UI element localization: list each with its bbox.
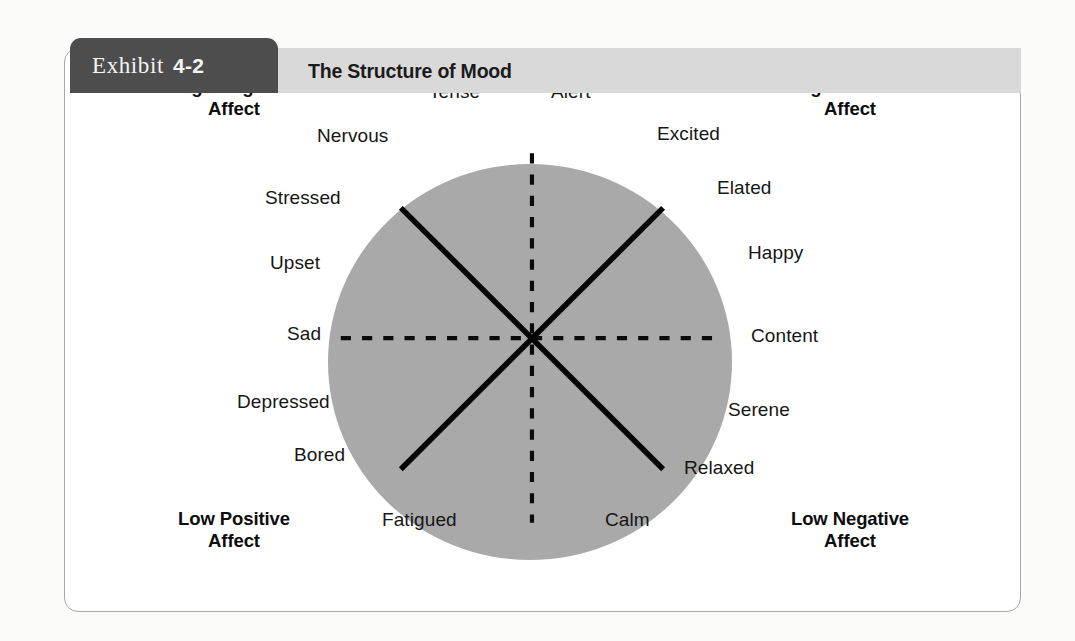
- mood-label-happy: Happy: [748, 242, 803, 264]
- mood-label-depressed: Depressed: [237, 391, 330, 413]
- mood-label-content: Content: [751, 325, 818, 347]
- quadrant-label-line2: Affect: [139, 530, 329, 552]
- exhibit-header-bar: The Structure of Mood: [278, 48, 1021, 93]
- quadrant-label-line2: Affect: [755, 98, 945, 120]
- exhibit-tag-word: Exhibit: [92, 53, 164, 78]
- quadrant-label-line2: Affect: [755, 530, 945, 552]
- mood-label-relaxed: Relaxed: [684, 457, 754, 479]
- quadrant-label-line1: Low Positive: [139, 508, 329, 530]
- exhibit-number-tag: Exhibit4-2: [70, 38, 278, 93]
- quadrant-label-line1: Low Negative: [755, 508, 945, 530]
- mood-label-bored: Bored: [294, 444, 345, 466]
- mood-axes: [65, 49, 1022, 568]
- exhibit-title: The Structure of Mood: [308, 59, 512, 82]
- mood-label-excited: Excited: [657, 123, 720, 145]
- mood-label-serene: Serene: [728, 399, 790, 421]
- quadrant-label-low-positive-affect: Low Positive Affect: [139, 508, 329, 552]
- quadrant-label-low-negative-affect: Low Negative Affect: [755, 508, 945, 552]
- mood-label-nervous: Nervous: [317, 125, 388, 147]
- mood-label-stressed: Stressed: [265, 187, 341, 209]
- exhibit-tag-inner: Exhibit4-2: [92, 53, 204, 79]
- mood-label-upset: Upset: [270, 252, 320, 274]
- quadrant-label-line2: Affect: [139, 98, 329, 120]
- mood-circumplex-diagram: High Negative Affect High Positive Affec…: [65, 49, 1020, 611]
- exhibit-tag-number: 4-2: [173, 54, 204, 77]
- mood-label-calm: Calm: [605, 509, 650, 531]
- mood-label-elated: Elated: [717, 177, 771, 199]
- exhibit-card: High Negative Affect High Positive Affec…: [64, 48, 1021, 612]
- mood-label-sad: Sad: [287, 323, 321, 345]
- mood-label-fatigued: Fatigued: [382, 509, 457, 531]
